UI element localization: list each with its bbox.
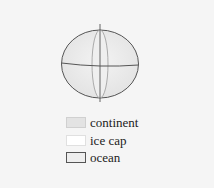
continent-swatch (66, 117, 86, 128)
legend: continent ice cap ocean (66, 114, 138, 167)
ice-cap-swatch (66, 135, 86, 146)
legend-item-ice-cap: ice cap (66, 132, 138, 150)
ocean-swatch (66, 152, 86, 163)
globe-diagram (0, 0, 214, 110)
legend-label: ice cap (90, 134, 126, 147)
legend-item-continent: continent (66, 114, 138, 132)
legend-item-ocean: ocean (66, 149, 138, 167)
legend-label: ocean (90, 151, 120, 164)
legend-label: continent (90, 116, 138, 129)
